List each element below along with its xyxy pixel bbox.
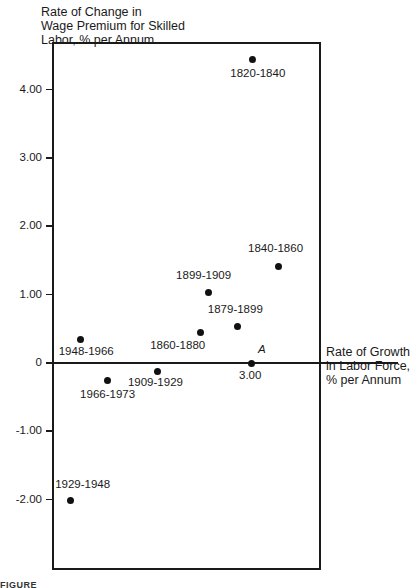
data-point-label: 1879-1899	[208, 303, 263, 315]
y-tick-label: -2.00	[16, 493, 42, 505]
y-tick-label: 4.00	[20, 83, 42, 95]
data-point-label: 1909-1929	[128, 376, 183, 388]
annotation-point	[248, 360, 255, 367]
data-point-label: 1948-1966	[59, 345, 114, 357]
annotation-label: A	[258, 343, 266, 355]
zero-axis-line	[52, 362, 398, 364]
data-point-label: 1929-1948	[55, 478, 110, 490]
data-point-label: 1860-1880	[150, 339, 205, 351]
y-axis-title: Rate of Change in Wage Premium for Skill…	[41, 5, 185, 47]
y-tick-label: 1.00	[20, 288, 42, 300]
data-point-label: 1966-1973	[80, 388, 135, 400]
plot-frame	[52, 42, 321, 570]
y-tick	[46, 294, 52, 296]
data-point-label: 1840-1860	[248, 242, 303, 254]
y-tick-label: 3.00	[20, 151, 42, 163]
y-tick	[46, 89, 52, 91]
data-point	[275, 263, 282, 270]
y-tick	[46, 157, 52, 159]
x-axis-title: Rate of Growth in Labor Force, % per Ann…	[326, 345, 410, 387]
data-point	[104, 377, 111, 384]
data-point-label: 1899-1909	[176, 269, 231, 281]
y-tick	[46, 499, 52, 501]
y-tick	[46, 225, 52, 227]
data-point	[205, 289, 212, 296]
y-tick	[46, 430, 52, 432]
y-tick	[46, 362, 52, 364]
y-tick-label: 2.00	[20, 219, 42, 231]
data-point-label: 1820-1840	[230, 67, 285, 79]
data-point	[249, 56, 256, 63]
x-tick-label: 3.00	[239, 369, 261, 381]
y-tick-label: -1.00	[16, 424, 42, 436]
figure-caption: FIGURE	[0, 580, 37, 588]
y-tick-label: 0	[36, 356, 42, 368]
data-point	[67, 497, 74, 504]
